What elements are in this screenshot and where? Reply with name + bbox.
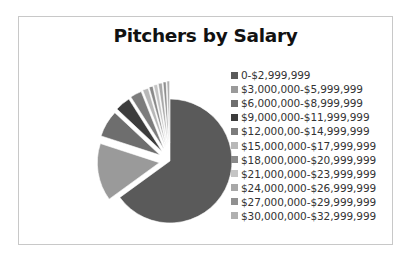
legend-label: $3,000,000-$5,999,999 — [241, 83, 363, 95]
legend-item: 0-$2,999,999 — [231, 68, 376, 82]
legend-swatch — [231, 114, 238, 121]
legend-item: $18,000,000-$20,999,999 — [231, 153, 376, 167]
legend-label: $18,000,000-$20,999,999 — [241, 154, 376, 166]
legend-swatch — [231, 184, 238, 191]
legend-swatch — [231, 142, 238, 149]
legend-swatch — [231, 86, 238, 93]
legend-label: $21,000,000-$23,999,999 — [241, 168, 376, 180]
legend-label: 0-$2,999,999 — [241, 69, 310, 81]
legend-label: $15,000,000-$17,999,999 — [241, 140, 376, 152]
legend-item: $3,000,000-$5,999,999 — [231, 82, 376, 96]
legend-item: $21,000,000-$23,999,999 — [231, 167, 376, 181]
chart-frame: Pitchers by Salary 0-$2,999,999$3,000,00… — [18, 16, 393, 245]
legend-swatch — [231, 72, 238, 79]
legend-label: $9,000,000-$11,999,999 — [241, 111, 370, 123]
legend-item: $24,000,000-$26,999,999 — [231, 181, 376, 195]
legend-label: $27,000,000-$29,999,999 — [241, 196, 376, 208]
legend-label: $6,000,000-$8,999,999 — [241, 97, 363, 109]
legend-item: $12,000,00-$14,999,999 — [231, 124, 376, 138]
legend-item: $30,000,000-$32,999,999 — [231, 209, 376, 223]
legend-swatch — [231, 100, 238, 107]
legend-swatch — [231, 128, 238, 135]
legend-swatch — [231, 156, 238, 163]
legend-label: $12,000,00-$14,999,999 — [241, 125, 370, 137]
legend-item: $6,000,000-$8,999,999 — [231, 96, 376, 110]
legend-label: $24,000,000-$26,999,999 — [241, 182, 376, 194]
legend-swatch — [231, 170, 238, 177]
legend: 0-$2,999,999$3,000,000-$5,999,999$6,000,… — [231, 68, 376, 223]
legend-swatch — [231, 212, 238, 219]
legend-label: $30,000,000-$32,999,999 — [241, 210, 376, 222]
legend-swatch — [231, 198, 238, 205]
legend-item: $15,000,000-$17,999,999 — [231, 138, 376, 152]
legend-item: $9,000,000-$11,999,999 — [231, 110, 376, 124]
legend-item: $27,000,000-$29,999,999 — [231, 195, 376, 209]
